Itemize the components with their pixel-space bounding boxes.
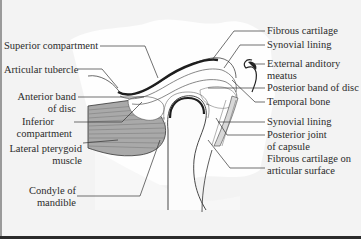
- label-articular-tubercle: Articular tubercle: [4, 64, 76, 76]
- label-synovial-lining-upper: Synovial lining: [267, 39, 331, 51]
- label-temporal-bone: Temporal bone: [267, 96, 330, 108]
- bottom-border: [0, 236, 361, 239]
- label-anterior-band-of-disc: Anterior band of disc: [4, 91, 76, 114]
- label-condyle-of-mandible: Condyle of mandible: [4, 185, 76, 208]
- label-posterior-band-of-disc: Posterior band of disc: [267, 82, 359, 94]
- label-superior-compartment: Superior compartment: [4, 40, 98, 52]
- label-synovial-lining-lower: Synovial lining: [267, 116, 331, 128]
- label-inferior-compartment: Inferior compartment: [4, 116, 72, 139]
- label-lateral-pterygoid-muscle: Lateral pterygoid muscle: [4, 143, 82, 166]
- label-external-auditory-meatus: External anditory meatus: [267, 58, 340, 81]
- label-fibrous-cartilage-articular: Fibrous cartilage on articular surface: [267, 153, 351, 176]
- label-posterior-joint-of-capsule: Posterior joint of capsule: [267, 129, 327, 152]
- label-fibrous-cartilage: Fibrous cartilage: [267, 25, 338, 37]
